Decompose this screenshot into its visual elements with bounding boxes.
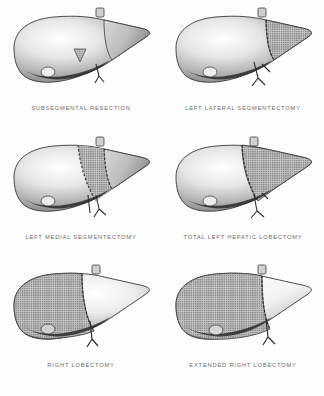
liver-illustration-1 xyxy=(0,0,162,108)
liver-illustration-2 xyxy=(162,0,324,108)
panel-caption: LEFT MEDIAL SEGMENTECTOMY xyxy=(6,233,157,240)
panel-total-left-hepatic-lobectomy: TOTAL LEFT HEPATIC LOBECTOMY xyxy=(162,129,324,261)
panel-caption: RIGHT LOBECTOMY xyxy=(6,361,157,368)
panel-subsegmental-resection: SUBSEGMENTAL RESECTION xyxy=(0,0,162,132)
panel-extended-right-lobectomy: EXTENDED RIGHT LOBECTOMY xyxy=(162,257,324,389)
panel-caption: EXTENDED RIGHT LOBECTOMY xyxy=(168,361,319,368)
panel-caption: TOTAL LEFT HEPATIC LOBECTOMY xyxy=(168,233,319,240)
panel-left-medial-segmentectomy: LEFT MEDIAL SEGMENTECTOMY xyxy=(0,129,162,261)
liver-illustration-6 xyxy=(162,257,324,365)
liver-illustration-5 xyxy=(0,257,162,365)
liver-resection-plate: SUBSEGMENTAL RESECTION xyxy=(0,0,324,396)
liver-illustration-3 xyxy=(0,129,162,237)
liver-illustration-4 xyxy=(162,129,324,237)
panel-caption: LEFT LATERAL SEGMENTECTOMY xyxy=(168,104,319,111)
panel-right-lobectomy: RIGHT LOBECTOMY xyxy=(0,257,162,389)
panel-left-lateral-segmentectomy: LEFT LATERAL SEGMENTECTOMY xyxy=(162,0,324,132)
panel-caption: SUBSEGMENTAL RESECTION xyxy=(6,104,157,111)
